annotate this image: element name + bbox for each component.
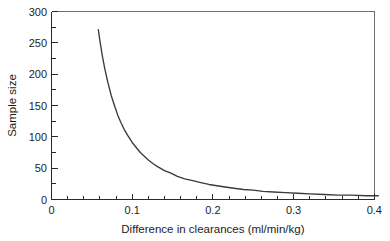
- chart-background: [0, 0, 390, 241]
- y-tick-label: 300: [29, 6, 47, 18]
- y-tick-label: 150: [29, 100, 47, 112]
- x-tick-label: 0.3: [286, 204, 301, 216]
- x-tick-label: 0: [48, 204, 54, 216]
- x-axis-title: Difference in clearances (ml/min/kg): [121, 223, 304, 235]
- x-tick-label: 0.4: [367, 204, 382, 216]
- y-tick-label: 200: [29, 68, 47, 80]
- y-tick-label: 50: [35, 162, 47, 174]
- y-tick-label: 100: [29, 131, 47, 143]
- y-tick-label: 250: [29, 37, 47, 49]
- x-tick-label: 0.1: [125, 204, 140, 216]
- x-tick-label: 0.2: [205, 204, 220, 216]
- sample-size-line-chart: 0 50 100 150 200 250 300 0 0.1 0.2 0.3 0…: [0, 0, 390, 241]
- y-tick-label: 0: [41, 194, 47, 206]
- y-axis-title: Sample size: [6, 74, 18, 137]
- chart-figure: 0 50 100 150 200 250 300 0 0.1 0.2 0.3 0…: [0, 0, 390, 241]
